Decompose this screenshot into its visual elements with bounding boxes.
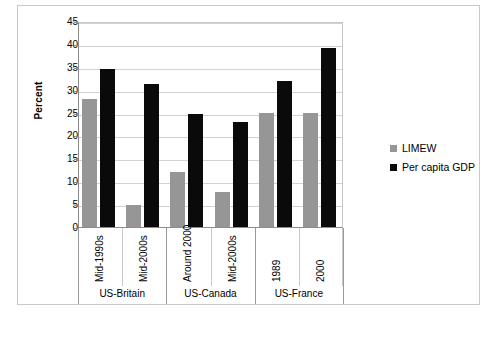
bar-per-capita-gdp (144, 84, 159, 227)
bar-per-capita-gdp (188, 114, 203, 227)
bar-limew (82, 99, 97, 227)
plot-area (78, 22, 343, 228)
legend-item-label: LIMEW (402, 143, 436, 154)
bar-limew (126, 205, 141, 227)
bar-limew (303, 113, 318, 227)
bar-limew (215, 192, 230, 227)
bar-limew (170, 172, 185, 227)
bar-limew (259, 113, 274, 227)
x-axis-category-label: Mid-1990s (95, 235, 105, 282)
group-separator (255, 228, 256, 304)
x-axis-category-label: Around 2000 (183, 225, 193, 282)
x-axis-category-label: 2000 (316, 260, 326, 282)
legend-item-label: Per capita GDP (402, 162, 475, 173)
category-separator (299, 228, 300, 286)
bar-per-capita-gdp (321, 48, 336, 227)
bar-per-capita-gdp (277, 81, 292, 227)
x-axis-category-labels: Mid-1990sMid-2000sAround 2000Mid-2000s19… (78, 228, 343, 286)
bar-group (300, 23, 344, 227)
bar-per-capita-gdp (100, 69, 115, 227)
legend-item[interactable]: LIMEW (390, 143, 475, 154)
chart-figure: Percent 454035302520151050 Mid-1990sMid-… (0, 0, 499, 342)
x-axis-group-label: US-France (255, 288, 343, 299)
x-axis-category-label: Mid-2000s (228, 235, 238, 282)
bar-group (212, 23, 256, 227)
category-separator (211, 228, 212, 286)
x-axis-category-label: 1989 (272, 260, 282, 282)
category-separator (122, 228, 123, 286)
legend-swatch-icon (390, 164, 397, 171)
bar-per-capita-gdp (233, 122, 248, 227)
chart-legend: LIMEWPer capita GDP (390, 143, 475, 181)
y-axis: 454035302520151050 (46, 22, 78, 228)
legend-swatch-icon (390, 145, 397, 152)
bar-group (79, 23, 123, 227)
group-separator (78, 228, 79, 304)
x-axis-group-labels: US-BritainUS-CanadaUS-France (18, 286, 479, 304)
bar-group (167, 23, 211, 227)
legend-item[interactable]: Per capita GDP (390, 162, 475, 173)
y-axis-title: Percent (33, 61, 44, 141)
bar-group (123, 23, 167, 227)
group-separator (166, 228, 167, 304)
group-separator (343, 228, 344, 304)
bar-series-container (79, 23, 342, 227)
x-axis-group-label: US-Britain (78, 288, 166, 299)
x-axis-group-label: US-Canada (166, 288, 254, 299)
bar-group (256, 23, 300, 227)
x-axis-category-label: Mid-2000s (139, 235, 149, 282)
